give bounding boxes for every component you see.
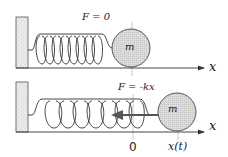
mass-label: m [168,103,177,114]
wall-icon [16,82,28,132]
origin-label: 0 [129,140,137,154]
spring-mass-diagram: m x F = 0 m x F = -kx 0 x(t) [0,0,228,157]
x-axis-label: x [209,118,217,133]
top-panel: m x F = 0 [16,11,217,76]
bottom-panel: m x F = -kx 0 x(t) [16,81,217,154]
mass-label: m [125,41,134,52]
wall-icon [16,17,28,68]
spring-icon [28,34,113,64]
force-label: F = 0 [81,11,111,22]
position-label: x(t) [168,140,187,153]
x-axis-label: x [209,59,217,74]
spring-icon [28,99,158,128]
force-label: F = -kx [117,81,155,92]
